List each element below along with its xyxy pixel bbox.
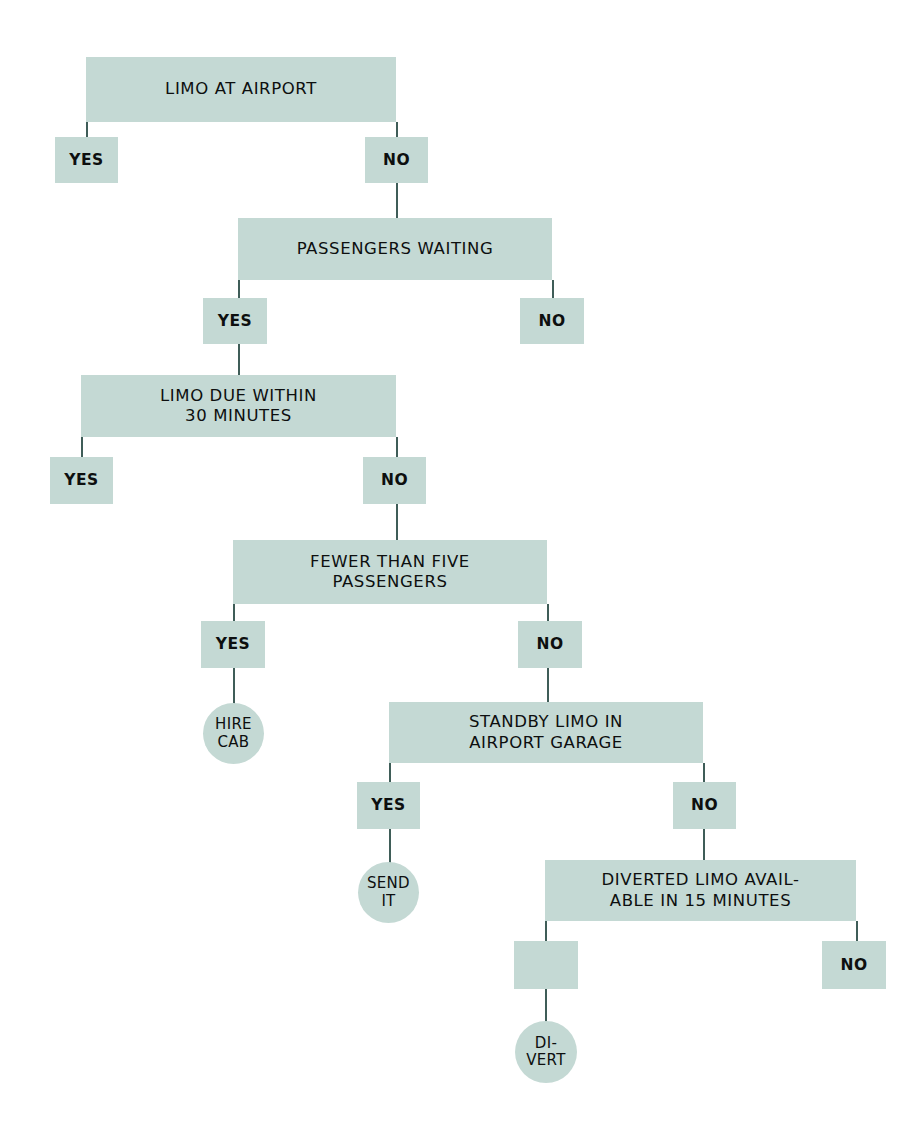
connector-line (396, 437, 398, 459)
connector-line (396, 504, 398, 542)
flowchart-canvas: LIMO AT AIRPORTYESNOPASSENGERS WAITINGYE… (0, 0, 923, 1125)
connector-line (396, 183, 398, 220)
branch-label-q6-yes (514, 941, 578, 989)
terminal-t-hire-cab: HIRE CAB (203, 703, 264, 764)
branch-label-q3-yes: YES (50, 457, 113, 504)
connector-line (703, 829, 705, 862)
connector-line (389, 763, 391, 784)
connector-line (703, 763, 705, 784)
terminal-t-divert: DI- VERT (515, 1021, 577, 1083)
connector-line (856, 921, 858, 943)
connector-line (81, 437, 83, 459)
decision-node-q3: LIMO DUE WITHIN 30 MINUTES (81, 375, 396, 437)
decision-node-q6: DIVERTED LIMO AVAIL- ABLE IN 15 MINUTES (545, 860, 856, 921)
branch-label-q5-yes: YES (357, 782, 420, 829)
branch-label-q1-no: NO (365, 137, 428, 183)
decision-node-q1: LIMO AT AIRPORT (86, 57, 396, 122)
connector-line (389, 829, 391, 864)
connector-line (545, 989, 547, 1023)
decision-node-q5: STANDBY LIMO IN AIRPORT GARAGE (389, 702, 703, 763)
connector-line (547, 668, 549, 704)
decision-node-q4: FEWER THAN FIVE PASSENGERS (233, 540, 547, 604)
connector-line (238, 280, 240, 300)
terminal-t-send-it: SEND IT (358, 862, 419, 923)
branch-label-q1-yes: YES (55, 137, 118, 183)
connector-line (545, 921, 547, 943)
branch-label-q3-no: NO (363, 457, 426, 504)
branch-label-q2-yes: YES (203, 298, 267, 344)
decision-node-q2: PASSENGERS WAITING (238, 218, 552, 280)
connector-line (238, 344, 240, 377)
branch-label-q4-no: NO (518, 621, 582, 668)
connector-line (233, 668, 235, 705)
connector-line (552, 280, 554, 300)
branch-label-q6-no: NO (822, 941, 886, 989)
branch-label-q2-no: NO (520, 298, 584, 344)
branch-label-q4-yes: YES (201, 621, 265, 668)
branch-label-q5-no: NO (673, 782, 736, 829)
